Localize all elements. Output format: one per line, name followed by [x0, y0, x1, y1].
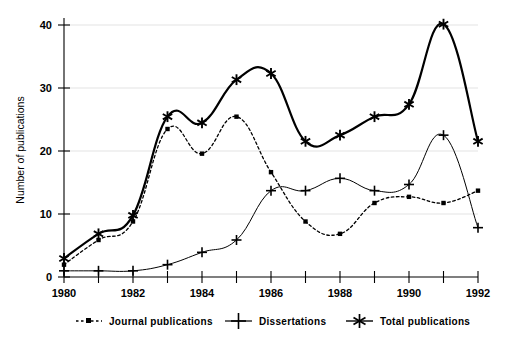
chart-figure: 40 30 20 10 0 1980 1982 1984 1986 1988 1… — [0, 0, 512, 341]
journal-data-point — [407, 195, 411, 199]
y-tick-label-10: 10 — [40, 208, 52, 220]
journal-data-point — [200, 151, 204, 155]
journal-data-point — [476, 188, 480, 192]
chart-background — [0, 0, 512, 341]
x-tick-label-1988: 1988 — [328, 287, 352, 299]
y-tick-label-30: 30 — [40, 82, 52, 94]
journal-data-point — [441, 201, 445, 205]
legend-label-dissertations: Dissertations — [259, 316, 326, 327]
journal-data-point — [234, 114, 238, 118]
legend-label-total-publications: Total publications — [380, 316, 470, 327]
x-tick-label-1986: 1986 — [259, 287, 283, 299]
x-tick-label-1982: 1982 — [121, 287, 145, 299]
journal-data-point — [269, 170, 273, 174]
y-axis-title: Number of publications — [14, 96, 26, 203]
journal-data-point — [165, 127, 169, 131]
x-tick-label-1980: 1980 — [52, 287, 76, 299]
x-tick-label-1984: 1984 — [190, 287, 215, 299]
journal-data-point — [303, 219, 307, 223]
legend-label-journal-publications: Journal publications — [109, 316, 213, 327]
publications-line-chart: 40 30 20 10 0 1980 1982 1984 1986 1988 1… — [0, 0, 512, 341]
journal-data-point — [372, 201, 376, 205]
x-tick-label-1990: 1990 — [397, 287, 421, 299]
y-tick-label-20: 20 — [40, 145, 52, 157]
x-tick-label-1992: 1992 — [466, 287, 490, 299]
y-tick-label-40: 40 — [40, 19, 52, 31]
journal-data-point — [338, 232, 342, 236]
y-tick-label-0: 0 — [46, 271, 52, 283]
chart-legend: Journal publications Dissertations — [76, 313, 470, 329]
